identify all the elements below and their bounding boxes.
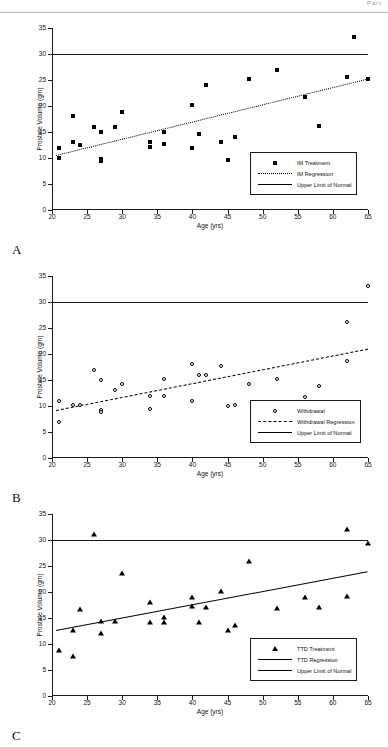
data-point (204, 83, 208, 87)
y-tick (48, 514, 52, 515)
x-tick-label: 55 (294, 462, 301, 469)
data-point (57, 156, 61, 160)
data-point (77, 606, 83, 611)
data-point (99, 130, 103, 134)
data-point (189, 604, 195, 609)
y-tick-label: 15 (39, 377, 46, 384)
data-point (196, 619, 202, 624)
y-axis-line (52, 514, 53, 696)
legend-line-icon (255, 659, 295, 660)
y-tick-label: 35 (39, 25, 46, 32)
y-tick-label: 30 (39, 51, 46, 58)
x-tick-label: 30 (119, 214, 126, 221)
legend-label: IM Treatment (297, 160, 330, 166)
y-tick-label: 30 (39, 537, 46, 544)
legend-label: Upper Limit of Normal (297, 430, 351, 436)
data-point (99, 378, 103, 382)
x-tick-label: 45 (224, 700, 231, 707)
y-tick (48, 644, 52, 645)
legend-square-icon (255, 161, 295, 165)
x-tick-label: 35 (154, 214, 161, 221)
data-point (92, 125, 96, 129)
data-point (113, 125, 117, 129)
data-point (366, 284, 370, 288)
data-point (148, 407, 152, 411)
y-tick (48, 618, 52, 619)
panel-letter: A (12, 242, 21, 258)
legend-triangle-icon (255, 646, 295, 651)
y-tick (48, 328, 52, 329)
panel-a: A Prostate Volume (gm) Age (yrs) 0510152… (0, 14, 388, 262)
x-tick-label: 40 (189, 700, 196, 707)
plot-frame: Prostate Volume (gm) Age (yrs) 051015202… (52, 276, 368, 458)
y-tick-label: 15 (39, 129, 46, 136)
data-point (98, 618, 104, 623)
y-tick-label: 5 (42, 429, 46, 436)
x-tick-label: 45 (224, 214, 231, 221)
data-point (78, 403, 82, 407)
data-point (162, 394, 166, 398)
y-tick (48, 276, 52, 277)
data-point (219, 140, 223, 144)
y-tick-label: 25 (39, 325, 46, 332)
data-point (247, 382, 251, 386)
x-tick-label: 50 (259, 700, 266, 707)
plot-area-a: Prostate Volume (gm) Age (yrs) 051015202… (52, 28, 368, 210)
data-point (197, 132, 201, 136)
data-point (162, 142, 166, 146)
y-tick (48, 380, 52, 381)
data-point (162, 377, 166, 381)
data-point (161, 620, 167, 625)
legend-item: IM Regression (255, 168, 351, 179)
data-point (226, 158, 230, 162)
y-tick (48, 592, 52, 593)
data-point (99, 159, 103, 163)
x-axis-line (52, 457, 368, 458)
legend: WithdrawalWithdrawal RegressionUpper Lim… (250, 400, 361, 443)
legend-item: IM Treatment (255, 157, 351, 168)
legend-line-icon (255, 421, 295, 422)
x-tick-label: 30 (119, 462, 126, 469)
data-point (71, 114, 75, 118)
x-tick-label: 25 (83, 214, 90, 221)
y-tick (48, 158, 52, 159)
data-point (148, 145, 152, 149)
data-point (190, 103, 194, 107)
header-fragment: Part (367, 0, 382, 6)
data-point (162, 130, 166, 134)
data-point (345, 320, 349, 324)
data-point (366, 77, 370, 81)
x-tick-label: 60 (329, 700, 336, 707)
plot-frame: Prostate Volume (gm) Age (yrs) 051015202… (52, 28, 368, 210)
y-tick-label: 20 (39, 103, 46, 110)
x-axis-line (52, 209, 368, 210)
y-tick (48, 106, 52, 107)
y-tick (48, 406, 52, 407)
upper-limit-of-normal-line (52, 540, 368, 541)
x-tick-label: 35 (154, 700, 161, 707)
data-point (302, 594, 308, 599)
y-axis-label: Prostate Volume (gm) (36, 574, 43, 637)
legend-item: TTD Treatment (255, 643, 351, 654)
x-tick-label: 65 (364, 214, 371, 221)
data-point (71, 140, 75, 144)
panel-letter: C (12, 728, 21, 744)
panel-c: C Prostate Volume (gm) Age (yrs) 0510152… (0, 500, 388, 747)
x-tick-label: 60 (329, 462, 336, 469)
data-point (317, 384, 321, 388)
legend-label: TTD Regression (297, 657, 338, 663)
y-tick (48, 132, 52, 133)
legend-item: Withdrawal (255, 405, 355, 416)
legend-label: Withdrawal (297, 408, 325, 414)
data-point (197, 373, 201, 377)
x-tick-label: 40 (189, 214, 196, 221)
data-point (70, 627, 76, 632)
data-point (275, 377, 279, 381)
data-point (275, 68, 279, 72)
data-point (148, 140, 152, 144)
data-point (233, 403, 237, 407)
data-point (120, 110, 124, 114)
x-tick-label: 50 (259, 462, 266, 469)
data-point (345, 75, 349, 79)
x-axis-label: Age (yrs) (197, 708, 223, 715)
